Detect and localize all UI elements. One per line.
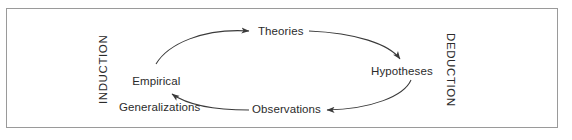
node-label-empirical-line1: Empirical — [132, 75, 180, 87]
node-label-theories: Theories — [258, 25, 304, 38]
node-label-observations: Observations — [252, 103, 321, 116]
diagram-canvas: Theories Hypotheses Observations Empiric… — [0, 0, 572, 140]
node-label-empirical-generalizations: Empirical Generalizations — [119, 62, 200, 140]
node-label-hypotheses: Hypotheses — [371, 65, 433, 78]
arrow-hypotheses-to-observations — [327, 80, 411, 110]
side-label-deduction: DEDUCTION — [445, 33, 457, 107]
arrow-empirical-to-theories — [156, 31, 249, 64]
node-label-empirical-line2: Generalizations — [119, 101, 200, 114]
cycle-arrows-group — [0, 0, 572, 140]
arrow-theories-to-hypotheses — [309, 31, 400, 59]
side-label-induction: INDUCTION — [97, 35, 109, 104]
